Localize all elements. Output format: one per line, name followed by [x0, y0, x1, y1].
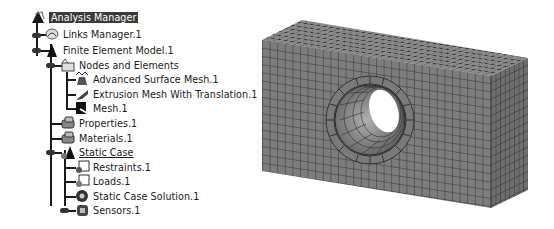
static-case-icon	[60, 144, 76, 160]
tree-connector	[50, 44, 52, 206]
expand-toggle[interactable]	[46, 150, 55, 155]
tree-label: Links Manager.1	[63, 29, 142, 40]
tree-label: Properties.1	[79, 118, 137, 129]
expand-toggle[interactable]	[60, 208, 69, 213]
surface-mesh-icon	[74, 71, 90, 87]
tree-label: Static Case	[79, 147, 134, 158]
properties-icon	[60, 115, 76, 131]
tree-label: Restraints.1	[93, 162, 151, 173]
tree-label: Loads.1	[93, 176, 131, 187]
mesh-side-face	[491, 58, 528, 208]
tree-node-static-case[interactable]: Static Case	[60, 144, 134, 160]
loads-icon	[74, 173, 90, 189]
analysis-manager-icon	[30, 9, 46, 25]
tree-node-advanced-surface-mesh[interactable]: Advanced Surface Mesh.1	[74, 71, 219, 87]
tree-node-analysis-manager[interactable]: Analysis Manager	[30, 9, 138, 25]
tree-node-mesh[interactable]: Mesh.1	[74, 100, 128, 116]
sensors-icon	[74, 202, 90, 218]
tree-label: Materials.1	[79, 133, 133, 144]
tree-node-loads[interactable]: Loads.1	[74, 173, 131, 189]
links-manager-icon	[44, 26, 60, 42]
tree-label: Advanced Surface Mesh.1	[93, 74, 219, 85]
finite-element-model-icon	[44, 42, 60, 58]
expand-toggle[interactable]	[46, 63, 55, 68]
tree-label: Mesh.1	[93, 103, 128, 114]
tree-node-properties[interactable]: Properties.1	[60, 115, 137, 131]
tree-node-finite-element-model[interactable]: Finite Element Model.1	[44, 42, 174, 58]
3d-viewport[interactable]	[250, 0, 554, 229]
tree-node-links-manager[interactable]: Links Manager.1	[44, 26, 142, 42]
tree-label: Sensors.1	[93, 205, 141, 216]
meshed-block-with-hole	[250, 0, 554, 229]
mesh-icon	[74, 100, 90, 116]
tree-connector	[66, 72, 68, 108]
tree-label: Analysis Manager	[49, 12, 138, 23]
tree-label: Static Case Solution.1	[93, 191, 199, 202]
tree-label: Nodes and Elements	[79, 60, 179, 71]
expand-toggle[interactable]	[32, 48, 41, 53]
tree-node-sensors[interactable]: Sensors.1	[74, 202, 141, 218]
specification-tree: Analysis Manager Links Manager.1 Finite …	[0, 0, 250, 229]
tree-label: Finite Element Model.1	[63, 45, 174, 56]
expand-toggle[interactable]	[32, 33, 41, 38]
tree-label: Extrusion Mesh With Translation.1	[93, 89, 257, 100]
